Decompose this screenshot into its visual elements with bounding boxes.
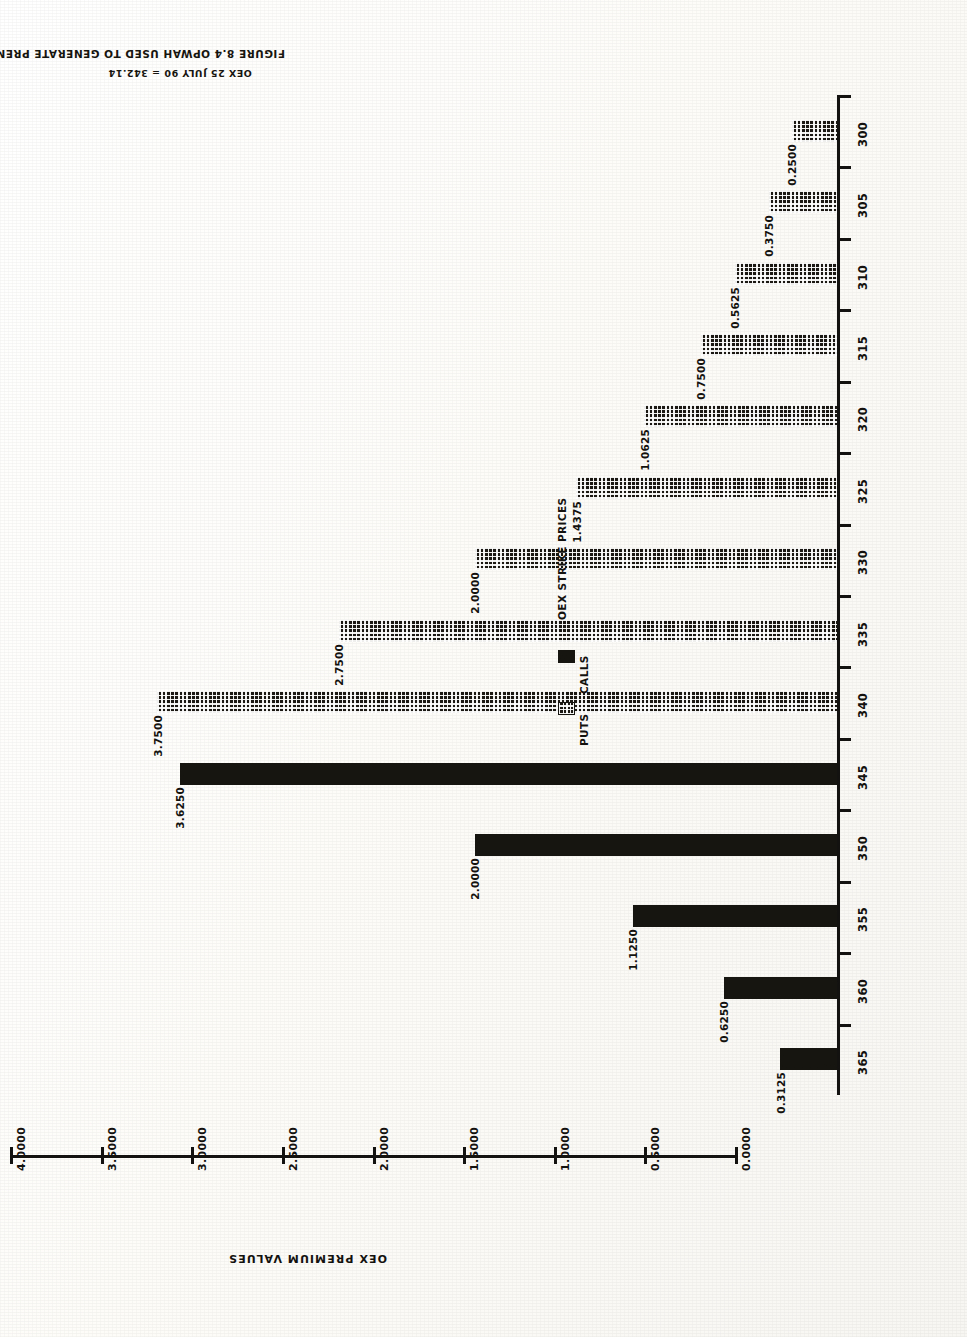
bar-value-label: 0.7500 — [695, 358, 707, 400]
legend-swatch-calls — [558, 650, 575, 663]
bar-value-label: 1.1250 — [627, 929, 639, 971]
value-tick — [735, 1147, 738, 1164]
value-tick-label: 3.0000 — [196, 1127, 209, 1171]
legend-label-puts: PUTS — [578, 713, 590, 746]
bar-puts-325: 1.4375 — [576, 477, 837, 499]
value-tick-label: 0.5000 — [649, 1127, 662, 1171]
value-tick-label: 1.5000 — [468, 1127, 481, 1171]
legend-swatch-puts — [558, 702, 575, 715]
category-label: 345 — [856, 764, 870, 789]
category-tick — [839, 452, 851, 455]
value-tick — [101, 1147, 104, 1164]
chart-plot-area: 0.25000.37500.56250.75001.06251.43752.00… — [120, 95, 840, 1095]
value-tick-label: 3.5000 — [106, 1127, 119, 1171]
value-tick-label: 0.0000 — [740, 1127, 753, 1171]
bar-puts-300: 0.2500 — [792, 120, 837, 142]
bar-puts-310: 0.5625 — [735, 263, 837, 285]
bar-puts-305: 0.3750 — [769, 191, 837, 213]
category-tick — [839, 881, 851, 884]
category-label: 340 — [856, 693, 870, 718]
bar-calls-360: 0.6250 — [724, 977, 837, 999]
chart-legend: OEX STRIKE PRICES CALLSPUTS — [556, 620, 616, 780]
category-label: 365 — [856, 1050, 870, 1075]
bar-fill — [780, 1048, 837, 1070]
bar-value-label: 3.7500 — [151, 715, 163, 757]
category-tick — [839, 524, 851, 527]
bar-fill — [633, 905, 837, 927]
bar-puts-315: 0.7500 — [701, 334, 837, 356]
bar-value-label: 1.0625 — [638, 429, 650, 471]
bar-value-label: 0.3750 — [763, 215, 775, 257]
value-tick-label: 1.0000 — [559, 1127, 572, 1171]
category-tick — [839, 95, 851, 98]
bar-fill — [792, 120, 837, 142]
value-tick — [644, 1147, 647, 1164]
category-label: 335 — [856, 621, 870, 646]
value-tick — [191, 1147, 194, 1164]
bar-calls-350: 2.0000 — [475, 834, 838, 856]
bar-value-label: 3.6250 — [174, 787, 186, 829]
category-label: 360 — [856, 979, 870, 1004]
value-tick-label: 2.5000 — [287, 1127, 300, 1171]
value-axis-title: OEX PREMIUM VALUES — [228, 1252, 387, 1265]
bar-puts-330: 2.0000 — [475, 548, 838, 570]
category-tick — [839, 738, 851, 741]
value-tick — [554, 1147, 557, 1164]
bar-calls-355: 1.1250 — [633, 905, 837, 927]
category-label: 330 — [856, 550, 870, 575]
value-tick — [10, 1147, 13, 1164]
value-axis-line: 0.00000.50001.00001.50002.00002.50003.00… — [10, 1155, 735, 1158]
bar-fill — [644, 405, 837, 427]
category-label: 300 — [856, 121, 870, 146]
category-tick — [839, 595, 851, 598]
bar-calls-345: 3.6250 — [180, 763, 837, 785]
bar-fill — [724, 977, 837, 999]
bar-value-label: 2.0000 — [469, 572, 481, 614]
bar-fill — [180, 763, 837, 785]
category-label: 325 — [856, 479, 870, 504]
value-tick-label: 4.0000 — [15, 1127, 28, 1171]
category-tick — [839, 381, 851, 384]
category-label: 355 — [856, 907, 870, 932]
value-tick — [463, 1147, 466, 1164]
category-tick — [839, 952, 851, 955]
bar-value-label: 1.4375 — [570, 501, 582, 543]
category-tick — [839, 309, 851, 312]
bar-calls-365: 0.3125 — [780, 1048, 837, 1070]
category-label: 310 — [856, 264, 870, 289]
bar-value-label: 2.7500 — [333, 644, 345, 686]
value-tick-label: 2.0000 — [378, 1127, 391, 1171]
category-tick — [839, 809, 851, 812]
bar-fill — [475, 834, 838, 856]
category-tick — [839, 166, 851, 169]
category-tick — [839, 1024, 851, 1027]
bar-value-label: 2.0000 — [469, 858, 481, 900]
bar-value-label: 0.5625 — [729, 287, 741, 329]
value-tick — [282, 1147, 285, 1164]
bar-fill — [735, 263, 837, 285]
bar-value-label: 0.6250 — [718, 1001, 730, 1043]
bar-fill — [701, 334, 837, 356]
value-tick — [373, 1147, 376, 1164]
figure-subtitle: OEX 25 JULY 90 = 342.14 — [95, 68, 265, 79]
category-tick — [839, 238, 851, 241]
category-label: 315 — [856, 336, 870, 361]
bar-fill — [157, 691, 837, 713]
legend-title: OEX STRIKE PRICES — [556, 498, 568, 620]
bar-value-label: 0.2500 — [786, 144, 798, 186]
bar-puts-340: 3.7500 — [157, 691, 837, 713]
category-label: 320 — [856, 407, 870, 432]
bar-fill — [475, 548, 838, 570]
category-tick — [839, 666, 851, 669]
category-label: 305 — [856, 193, 870, 218]
bar-value-label: 0.3125 — [774, 1072, 786, 1114]
category-label: 350 — [856, 836, 870, 861]
figure-title: FIGURE 8.4 OPWAH USED TO GENERATE PREMIU… — [75, 48, 285, 60]
bar-fill — [769, 191, 837, 213]
legend-label-calls: CALLS — [578, 655, 590, 694]
bar-puts-320: 1.0625 — [644, 405, 837, 427]
bar-fill — [576, 477, 837, 499]
